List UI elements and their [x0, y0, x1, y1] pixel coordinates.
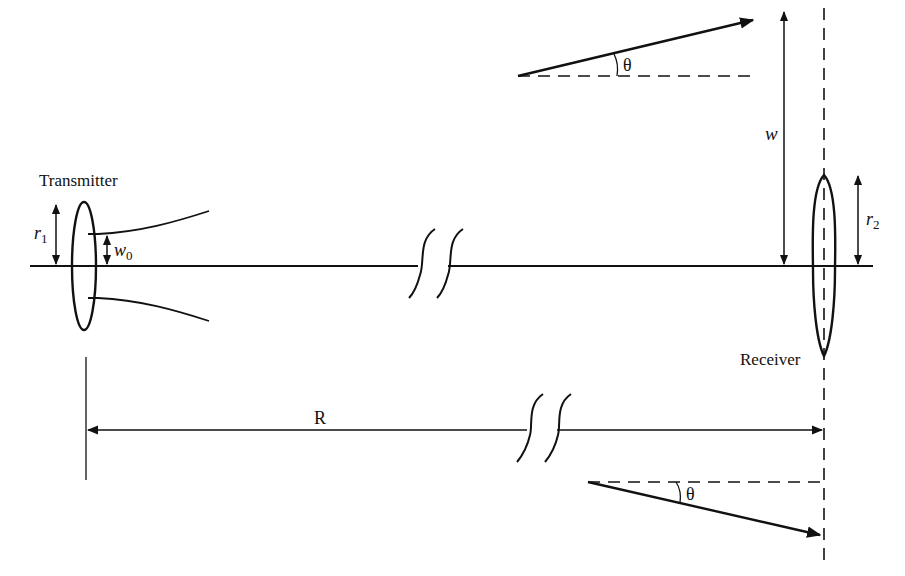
transmitter-label: Transmitter — [39, 171, 118, 190]
theta-top-label: θ — [623, 55, 632, 75]
axis-break-icon — [409, 229, 463, 298]
top-angle-figure: θ — [518, 20, 756, 76]
r1-label: r1 — [34, 223, 48, 246]
w0-label: w0 — [114, 240, 133, 263]
theta-bottom-label: θ — [686, 484, 695, 504]
w-label: w — [765, 123, 778, 144]
range-arrow — [88, 394, 822, 462]
diagram-svg: Transmitter r1 w0 w r2 Receiver θ R θ — [0, 0, 905, 576]
range-label: R — [314, 408, 326, 428]
receiver-label: Receiver — [740, 350, 801, 369]
bottom-angle-figure: θ — [588, 482, 822, 535]
r2-label: r2 — [866, 209, 880, 232]
diagram-canvas: Transmitter r1 w0 w r2 Receiver θ R θ — [0, 0, 905, 576]
